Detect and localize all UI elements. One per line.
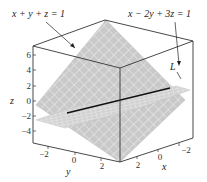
z-tick: 0 — [27, 96, 32, 106]
line-L-arrow — [177, 72, 181, 79]
arrow-head-icon — [177, 61, 181, 66]
y-tick: 2 — [100, 161, 105, 171]
z-tick: 4 — [27, 65, 32, 75]
3d-plot: 6 4 2 0 −2 −4 z −2 0 2 y 2 0 −2 x x + y … — [0, 0, 207, 182]
y-axis-label: y — [65, 166, 71, 177]
z-tick: −4 — [21, 126, 31, 136]
plane1-label: x + y + z = 1 — [11, 8, 65, 19]
z-axis-label: z — [9, 95, 14, 106]
z-tick: 6 — [27, 50, 32, 60]
x-tick: 2 — [136, 160, 141, 170]
z-tick: 2 — [27, 81, 32, 91]
z-tick: −2 — [21, 111, 31, 121]
y-tick: 0 — [72, 155, 77, 165]
plane1-arrow — [46, 22, 75, 48]
x-axis-label: x — [161, 161, 167, 172]
x-tick: −2 — [181, 145, 191, 155]
plane2-arrow — [175, 22, 179, 64]
y-tick: −2 — [39, 149, 49, 159]
plane2-label: x − 2y + 3z = 1 — [127, 8, 191, 19]
line-L-label: L — [169, 61, 176, 72]
